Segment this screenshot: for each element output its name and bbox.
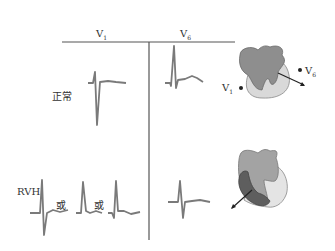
row-label-rvh: RVH — [17, 187, 40, 197]
or-label-1: 或 — [56, 201, 66, 211]
ecg-normal-v1 — [88, 72, 126, 125]
heart-normal-illustration — [239, 46, 305, 98]
electrode-v1-label: V1 — [222, 83, 233, 95]
electrode-v6-dot — [298, 68, 302, 72]
diagram-canvas — [0, 0, 335, 251]
ecg-rvh-v1-pattern-3 — [108, 181, 140, 218]
heart-rvh-illustration — [231, 150, 287, 209]
ecg-rvh-v6 — [168, 181, 210, 218]
or-label-2: 或 — [94, 201, 104, 211]
electrode-v1-dot — [239, 86, 243, 90]
electrode-v6-label: V6 — [305, 66, 316, 78]
column-header-v6: V6 — [180, 29, 191, 41]
row-label-normal: 正常 — [52, 92, 72, 102]
column-header-v1: V1 — [96, 29, 107, 41]
ecg-normal-v6 — [165, 46, 203, 88]
